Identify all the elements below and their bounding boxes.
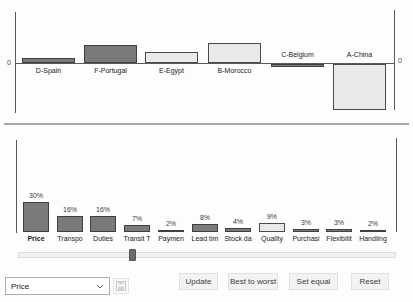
bottom-chart-left-axis [16, 140, 17, 233]
weight-bar-transit-t[interactable] [124, 225, 150, 232]
bar-label-c-belgium: C-Belgium [268, 51, 328, 59]
bar-d-spain [22, 58, 75, 63]
top-chart-right-axis [394, 10, 395, 110]
weight-value-quality: 9% [257, 213, 287, 221]
weight-value-flexibilit: 3% [324, 219, 354, 227]
floppy-disk-icon [116, 281, 126, 291]
weight-value-transpo: 16% [55, 206, 85, 214]
bar-b-morocco [208, 43, 261, 63]
weight-bar-price[interactable] [23, 202, 49, 232]
weight-value-stock-da: 4% [223, 218, 253, 226]
weight-bar-stock-da[interactable] [225, 228, 251, 232]
bar-label-e-egypt: E-Egypt [142, 67, 202, 75]
weight-slider-track[interactable] [18, 252, 396, 258]
top-chart-zero-label-right: 0 [398, 57, 402, 64]
weight-bar-handling[interactable] [360, 230, 386, 232]
weight-bar-lead-tim[interactable] [192, 224, 218, 232]
bar-label-a-china: A-China [330, 51, 390, 59]
criterion-select-value: Price [11, 282, 29, 291]
bar-a-china [333, 64, 386, 110]
reset-button[interactable]: Reset [351, 273, 389, 290]
weight-bar-transpo[interactable] [57, 216, 83, 232]
criterion-label-quality[interactable]: Quality [255, 235, 289, 243]
weight-bar-paymen[interactable] [158, 230, 184, 232]
supplier-comparison-window: 0 0 D-SpainF-PortugalE-EgyptB-MoroccoC-B… [0, 0, 413, 302]
weight-value-lead-tim: 8% [190, 214, 220, 222]
weight-slider-thumb[interactable] [129, 249, 136, 261]
weight-value-price: 30% [21, 192, 51, 200]
criterion-label-paymen[interactable]: Paymen [154, 235, 188, 243]
criterion-label-handling[interactable]: Handling [356, 235, 390, 243]
weight-bar-purchasi[interactable] [293, 229, 319, 232]
set-equal-button[interactable]: Set equal [289, 273, 338, 290]
bar-label-d-spain: D-Spain [19, 67, 79, 75]
criterion-label-stock-da[interactable]: Stock da [221, 235, 255, 243]
weight-bar-flexibilit[interactable] [326, 229, 352, 232]
weight-value-transit-t: 7% [122, 215, 152, 223]
weight-bar-duties[interactable] [90, 216, 116, 232]
criterion-label-purchasi[interactable]: Purchasi [289, 235, 323, 243]
save-button[interactable] [113, 278, 129, 294]
criterion-label-duties[interactable]: Duties [86, 235, 120, 243]
criterion-label-price[interactable]: Price [19, 235, 53, 243]
criterion-label-transit-t[interactable]: Transit T [120, 235, 154, 243]
weight-value-handling: 2% [358, 220, 388, 228]
weight-value-duties: 16% [88, 206, 118, 214]
bottom-chart-right-axis [396, 138, 397, 232]
criterion-label-flexibilit[interactable]: Flexibilit [322, 235, 356, 243]
bar-c-belgium [271, 64, 324, 67]
criterion-select[interactable]: Price [5, 277, 110, 295]
bar-label-f-portugal: F-Portugal [81, 67, 141, 75]
update-button[interactable]: Update [179, 273, 218, 290]
criterion-label-lead-tim[interactable]: Lead tim [188, 235, 222, 243]
criterion-label-transpo[interactable]: Transpo [53, 235, 87, 243]
bar-label-b-morocco: B-Morocco [205, 67, 265, 75]
best-to-worst-button[interactable]: Best to worst [228, 273, 278, 290]
bar-e-egypt [145, 52, 198, 63]
bar-f-portugal [84, 45, 137, 63]
weight-bar-quality[interactable] [259, 223, 285, 232]
top-chart-zero-label-left: 0 [7, 59, 11, 66]
chart-divider [4, 123, 409, 125]
chevron-down-icon [96, 284, 104, 289]
weight-value-paymen: 2% [156, 220, 186, 228]
weight-value-purchasi: 3% [291, 219, 321, 227]
